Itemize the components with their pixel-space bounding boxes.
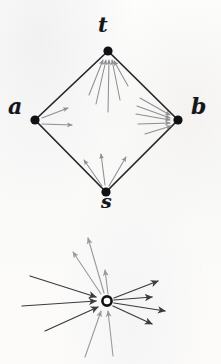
field-arrow [114,297,152,300]
node-t[interactable] [103,46,112,55]
field-arrow [85,311,101,357]
field-dark-arrows-outward [113,281,165,324]
figure-root: t a b s [0,0,221,364]
flow-arrow [89,60,103,95]
field-arrow [73,252,101,294]
flow-arrow [138,123,170,124]
field-arrow [45,307,98,331]
node-label-s: s [101,192,112,211]
field-center-node[interactable] [102,296,111,305]
graph-edges [35,51,178,192]
field-arrow [114,281,158,298]
flow-arrow [96,60,106,104]
field-arrow [113,306,152,324]
field-arrow [30,276,96,297]
diagram-canvas [0,0,221,364]
edge-t-b [108,51,178,120]
node-label-a: a [8,95,22,117]
flow-arrows-into-t [89,60,128,112]
graph-nodes [30,46,182,196]
field-arrow [108,311,113,356]
field-gray-arrows-up [73,238,108,294]
field-arrow [88,238,104,293]
node-label-t: t [98,14,108,35]
node-label-b: b [191,95,206,117]
flow-arrows-into-b [136,98,171,134]
flow-arrow [42,124,72,125]
edge-s-b [106,120,178,192]
edge-a-t [35,51,108,120]
edge-a-s [35,120,106,192]
flow-arrow [108,60,109,112]
field-dark-arrows-inward [22,276,98,331]
node-b[interactable] [173,115,182,124]
flow-arrows-out-s [84,154,126,186]
flow-arrows-out-a [42,108,72,125]
flow-arrow [101,154,105,185]
node-a[interactable] [30,115,39,124]
field-arrow [22,301,96,306]
flow-arrow [112,60,120,100]
field-gray-arrows-in-bottom [85,311,113,357]
flow-arrow [136,114,170,120]
field-arrow [105,270,108,294]
